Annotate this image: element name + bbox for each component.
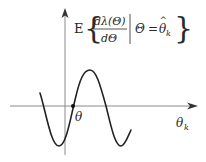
diagram-canvas: θ θ k E { dλ(Θ) dΘ Θ = θ ^ k }: [0, 0, 206, 162]
expectation-symbol: E: [74, 21, 84, 36]
right-brace: }: [174, 10, 193, 45]
condition-rhs-subscript: k: [166, 29, 171, 38]
fraction-denominator: dΘ: [101, 32, 117, 45]
condition-rhs-hat: ^: [160, 15, 168, 25]
derivative-curve: [40, 70, 131, 146]
formula: E { dλ(Θ) dΘ Θ = θ ^ k }: [74, 10, 193, 45]
condition-lhs: Θ: [135, 22, 145, 36]
fraction-numerator: dλ(Θ): [94, 15, 126, 28]
condition-equals: =: [148, 22, 158, 36]
x-axis-label: θ: [176, 116, 184, 130]
x-axis-label-subscript: k: [184, 123, 189, 132]
root-point: [71, 104, 75, 108]
root-label: θ: [75, 110, 83, 124]
